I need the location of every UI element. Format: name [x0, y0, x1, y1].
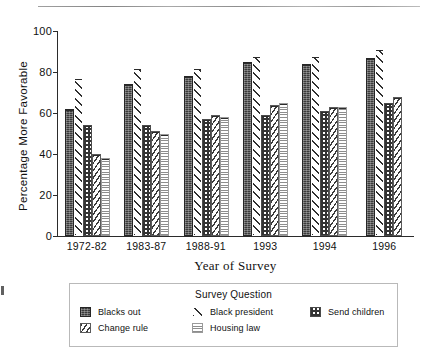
- bar-top-edge: [66, 110, 73, 111]
- legend-item-housing-law: Housing law: [192, 322, 310, 333]
- bar-group-1988-91: [177, 31, 236, 236]
- legend-item-send-children: Send children: [310, 306, 384, 317]
- bars-1983-87: [117, 31, 176, 236]
- bar-top-edge: [221, 118, 228, 119]
- bar-top-edge: [330, 108, 337, 109]
- y-tick-label-60: 60: [39, 108, 52, 119]
- bars-1988-91: [177, 31, 236, 236]
- bar-top-edge: [280, 104, 287, 105]
- legend-column-1: Blacks out Change rule: [80, 306, 192, 333]
- bars-1993: [236, 31, 295, 236]
- y-tick-mark-80: [53, 72, 57, 73]
- y-tick-mark-60: [53, 113, 57, 114]
- bar-black-president-1994: [311, 56, 320, 236]
- legend-item-change-rule: Change rule: [80, 322, 192, 333]
- chart-page: Percentage More Favorable 020406080100 1…: [0, 0, 426, 355]
- bar-send-children-1994: [320, 111, 329, 236]
- legend-label-housing-law: Housing law: [210, 323, 260, 333]
- bar-top-edge: [134, 69, 141, 70]
- y-tick-mark-40: [53, 154, 57, 155]
- y-tick-label-0: 0: [46, 231, 52, 242]
- legend-swatch-change-rule: [80, 323, 91, 333]
- bar-black-president-1996: [375, 49, 384, 236]
- bar-top-edge: [385, 104, 392, 105]
- legend-swatch-blacks-out: [80, 307, 91, 317]
- x-axis-title: Year of Survey: [57, 258, 414, 274]
- bar-change-rule-1994: [329, 107, 338, 236]
- bar-black-president-1993: [252, 56, 261, 236]
- bar-top-edge: [253, 57, 260, 58]
- bar-send-children-1993: [261, 115, 270, 236]
- bar-top-edge: [75, 79, 82, 80]
- bar-top-edge: [262, 116, 269, 117]
- legend-swatch-send-children: [310, 307, 321, 317]
- bar-blacks-out-1996: [366, 58, 375, 236]
- bar-top-edge: [125, 85, 132, 86]
- bar-black-president-1988-91: [193, 68, 202, 236]
- bar-blacks-out-1993: [243, 62, 252, 236]
- x-tick-label-1993: 1993: [236, 240, 296, 254]
- bar-change-rule-1996: [393, 97, 402, 236]
- bar-group-1983-87: [117, 31, 176, 236]
- legend-item-blacks-out: Blacks out: [80, 306, 192, 317]
- bar-group-1994: [295, 31, 354, 236]
- bar-top-edge: [212, 116, 219, 117]
- bar-group-1972-82: [58, 31, 117, 236]
- legend-label-blacks-out: Blacks out: [98, 307, 141, 317]
- bar-send-children-1983-87: [142, 125, 151, 236]
- bar-top-edge: [244, 63, 251, 64]
- bar-top-edge: [152, 132, 159, 133]
- bar-top-edge: [203, 120, 210, 121]
- y-tick-label-100: 100: [33, 26, 52, 37]
- legend-label-black-president: Black president: [210, 307, 273, 317]
- bar-group-1996: [355, 31, 414, 236]
- bar-housing-law-1988-91: [220, 117, 229, 236]
- bar-black-president-1983-87: [133, 68, 142, 236]
- bar-top-edge: [143, 126, 150, 127]
- legend-column-2: Black president Housing law: [192, 306, 310, 333]
- bar-top-edge: [312, 57, 319, 58]
- bar-top-edge: [321, 112, 328, 113]
- bar-change-rule-1983-87: [151, 131, 160, 236]
- bar-housing-law-1983-87: [160, 134, 169, 237]
- y-tick-mark-100: [53, 31, 57, 32]
- x-tick-label-1994: 1994: [295, 240, 355, 254]
- bar-change-rule-1993: [270, 105, 279, 236]
- bar-blacks-out-1988-91: [184, 76, 193, 236]
- bar-groups: [58, 31, 414, 236]
- y-tick-label-40: 40: [39, 149, 52, 160]
- legend-title: Survey Question: [70, 289, 397, 300]
- bar-send-children-1996: [384, 103, 393, 236]
- legend-item-black-president: Black president: [192, 306, 310, 317]
- bars-1972-82: [58, 31, 117, 236]
- bar-group-1993: [236, 31, 295, 236]
- bar-top-edge: [394, 98, 401, 99]
- x-axis-tick-labels: 1972-821983-871988-91199319941996: [57, 240, 414, 254]
- bar-top-edge: [367, 59, 374, 60]
- bar-top-edge: [194, 69, 201, 70]
- bar-blacks-out-1983-87: [124, 84, 133, 236]
- legend-swatch-black-president: [192, 307, 203, 317]
- bar-top-edge: [102, 159, 109, 160]
- scan-line-artifact: [38, 6, 420, 7]
- x-tick-label-1972-82: 1972-82: [57, 240, 117, 254]
- y-tick-label-20: 20: [39, 190, 52, 201]
- bar-change-rule-1972-82: [92, 154, 101, 236]
- plot-area: 020406080100: [57, 31, 414, 236]
- bar-top-edge: [161, 135, 168, 136]
- bar-top-edge: [376, 50, 383, 51]
- bar-housing-law-1993: [279, 103, 288, 236]
- x-tick-label-1988-91: 1988-91: [176, 240, 236, 254]
- bar-housing-law-1972-82: [101, 158, 110, 236]
- legend-column-3: Send children: [310, 306, 384, 333]
- y-tick-label-80: 80: [39, 67, 52, 78]
- bars-1994: [295, 31, 354, 236]
- bar-top-edge: [271, 106, 278, 107]
- bar-top-edge: [303, 65, 310, 66]
- bar-blacks-out-1972-82: [65, 109, 74, 236]
- y-axis-title: Percentage More Favorable: [16, 41, 30, 231]
- bar-top-edge: [339, 108, 346, 109]
- y-tick-mark-0: [53, 236, 57, 237]
- bar-send-children-1988-91: [202, 119, 211, 236]
- bar-top-edge: [93, 155, 100, 156]
